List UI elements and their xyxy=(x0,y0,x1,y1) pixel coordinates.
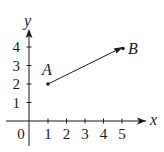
x-tick-label-2: 2 xyxy=(63,126,71,142)
y-tick-label-1: 1 xyxy=(13,95,21,111)
point-a-label: A xyxy=(41,61,52,78)
vector-line xyxy=(48,49,120,85)
x-axis-label: x xyxy=(149,111,157,128)
x-tick-label-4: 4 xyxy=(100,126,108,142)
coordinate-plane: x 1 2 3 4 5 y 1 2 3 4 0 A xyxy=(0,0,164,152)
point-a: A xyxy=(41,61,52,86)
y-axis-label: y xyxy=(22,12,32,30)
point-b-label: B xyxy=(128,40,138,57)
y-tick-label-2: 2 xyxy=(13,76,21,92)
point-a-dot xyxy=(46,82,50,86)
point-b-dot xyxy=(121,47,125,51)
x-tick-label-5: 5 xyxy=(118,126,126,142)
x-tick-label-3: 3 xyxy=(81,126,89,142)
point-b: B xyxy=(121,40,138,57)
origin-label: 0 xyxy=(17,126,25,142)
x-tick-label-1: 1 xyxy=(44,126,52,142)
vector-ab xyxy=(48,47,123,84)
y-tick-label-4: 4 xyxy=(13,39,21,55)
y-tick-label-3: 3 xyxy=(13,58,21,74)
